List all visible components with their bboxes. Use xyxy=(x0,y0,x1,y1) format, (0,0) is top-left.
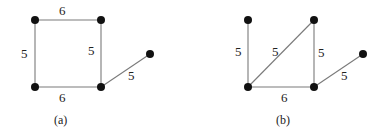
weight-a-right: 5 xyxy=(88,43,95,58)
node-a-top-left xyxy=(31,16,39,24)
node-a-bottom-left xyxy=(31,83,39,91)
weight-a-bottom: 6 xyxy=(59,90,66,105)
caption-a: (a) xyxy=(54,113,67,127)
node-b-top-left xyxy=(244,16,252,24)
edge-a-diagonal xyxy=(101,54,150,87)
node-a-bottom-right xyxy=(97,83,105,91)
node-a-top-right xyxy=(97,16,105,24)
weight-a-diagonal: 5 xyxy=(128,68,135,83)
weight-b-right: 5 xyxy=(318,45,325,60)
caption-b: (b) xyxy=(276,113,290,127)
weight-a-left: 5 xyxy=(21,46,28,61)
node-a-far xyxy=(146,50,154,58)
node-b-bottom-right xyxy=(310,83,318,91)
weight-b-bottom: 6 xyxy=(281,90,288,105)
node-b-bottom-left xyxy=(244,83,252,91)
graph-figure: 6 5 5 6 5 (a) 5 5 5 6 5 (b) xyxy=(0,0,386,134)
weight-b-left: 5 xyxy=(235,44,242,59)
edge-b-diagonal-inner xyxy=(248,20,314,87)
node-b-top-right xyxy=(310,16,318,24)
weight-b-diagonal-outer: 5 xyxy=(341,68,348,83)
node-b-far xyxy=(359,50,367,58)
graph-b: 5 5 5 6 5 (b) xyxy=(235,16,367,127)
weight-a-top: 6 xyxy=(59,3,66,18)
graph-a: 6 5 5 6 5 (a) xyxy=(21,3,154,127)
weight-b-diagonal-inner: 5 xyxy=(272,44,279,59)
